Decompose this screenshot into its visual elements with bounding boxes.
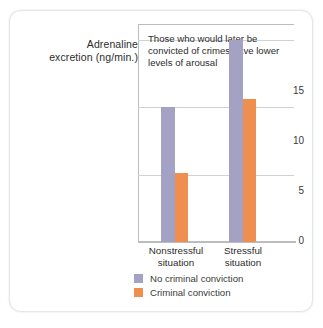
legend-item-criminal-conviction: Criminal conviction [134, 287, 243, 298]
bars-layer [10, 11, 312, 242]
x-tick-label-nonstressful-line-2: situation [143, 257, 209, 269]
legend-swatch-orange-icon [134, 288, 143, 297]
legend-label-criminal-conviction: Criminal conviction [150, 287, 231, 298]
x-tick-label-stressful: Stressful situation [213, 245, 273, 268]
legend-item-no-criminal-conviction: No criminal conviction [134, 273, 243, 284]
figure-card: Adrenaline excretion (ng/min.) 15 10 5 0… [9, 10, 313, 312]
legend-label-no-criminal-conviction: No criminal conviction [150, 273, 243, 284]
bar-group-nonstressful [161, 24, 189, 242]
bar-group-stressful [229, 24, 257, 242]
bar-stressful-criminal-conviction [243, 99, 257, 242]
legend-swatch-purple-icon [134, 274, 143, 283]
bar-stressful-no-criminal-conviction [229, 40, 243, 242]
x-tick-label-stressful-line-1: Stressful [213, 245, 273, 257]
x-tick-label-stressful-line-2: situation [213, 257, 273, 269]
x-tick-label-nonstressful-line-1: Nonstressful [143, 245, 209, 257]
chart-legend: No criminal conviction Criminal convicti… [134, 273, 243, 301]
bar-nonstressful-no-criminal-conviction [161, 107, 175, 242]
bar-nonstressful-criminal-conviction [175, 173, 189, 242]
x-tick-label-nonstressful: Nonstressful situation [143, 245, 209, 268]
